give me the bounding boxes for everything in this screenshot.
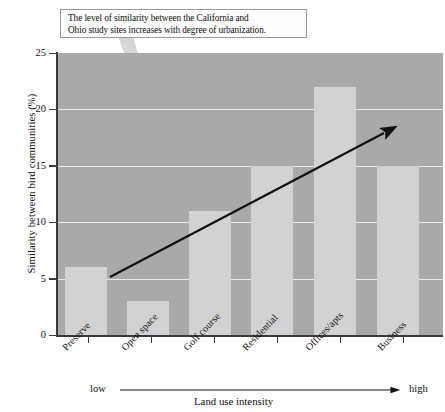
chart-figure: The level of similarity between the Cali… — [0, 0, 445, 412]
y-axis-title: Similarity between bird communities (%) — [26, 69, 37, 299]
x-tick-5 — [340, 336, 341, 343]
x-tick-3 — [214, 336, 215, 343]
x-tick-2 — [151, 336, 152, 343]
x-tick-1 — [88, 336, 89, 343]
x-axis-low-label: low — [90, 383, 106, 394]
x-axis-title: Land use intensity — [194, 395, 273, 407]
x-tick-6 — [403, 336, 404, 343]
y-tick-label-0: 0 — [20, 329, 46, 340]
x-tick-4 — [277, 336, 278, 343]
x-axis-high-label: high — [409, 383, 428, 394]
y-tick-label-25: 25 — [20, 47, 46, 58]
